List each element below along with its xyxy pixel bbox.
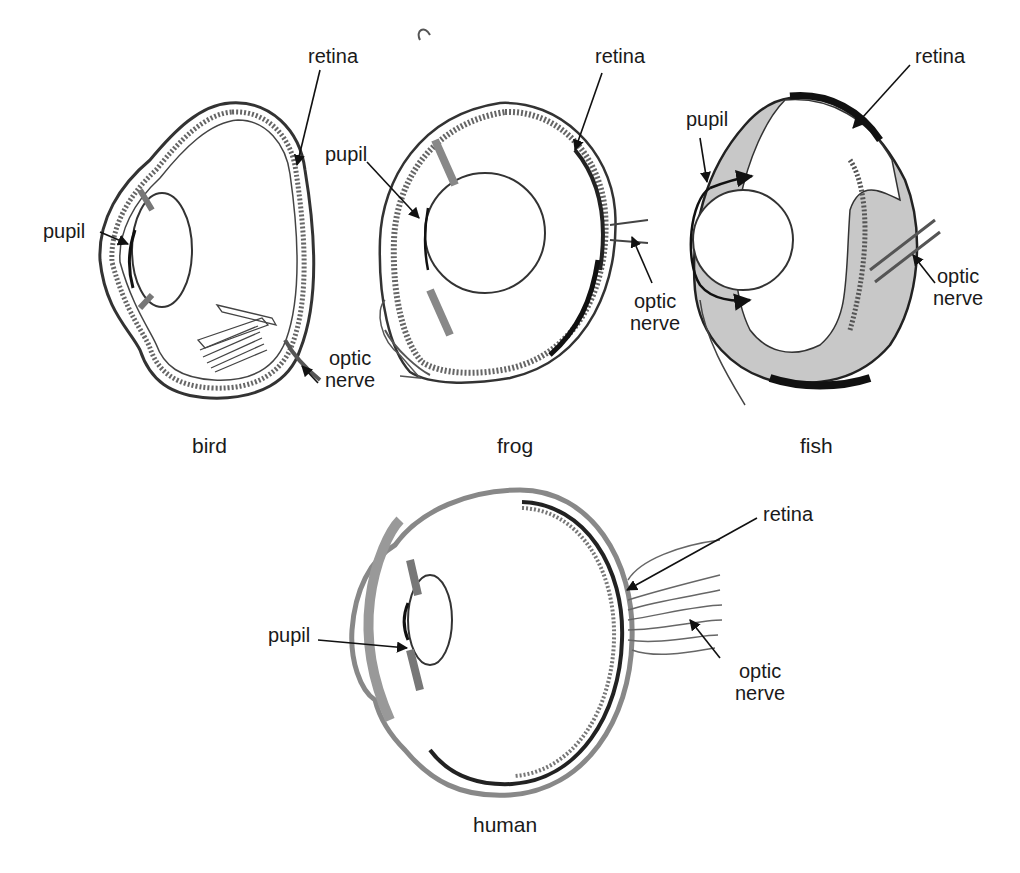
frog-optic-nerve-label: optic nerve (630, 290, 680, 334)
bird-optic-nerve-label: optic nerve (325, 347, 375, 391)
bird-pupil-label: pupil (43, 220, 85, 242)
frog-pupil-label: pupil (325, 143, 367, 165)
human-retina-label: retina (763, 503, 813, 525)
frog-optic-nerve-pointer (632, 237, 652, 283)
bird-retina-label: retina (308, 45, 358, 67)
human-optic-label-line1: optic (735, 660, 785, 682)
human-retina-pointer (627, 518, 757, 590)
fish-pupil-label: pupil (686, 108, 728, 130)
bird-retina-pointer (297, 70, 320, 165)
fish-retina-pointer (853, 65, 910, 128)
human-optic-label-line2: nerve (735, 682, 785, 704)
frog-eye-drawing (380, 30, 648, 383)
frog-caption: frog (497, 434, 533, 458)
fish-optic-label-line2: nerve (933, 287, 983, 309)
human-eye-drawing (352, 490, 722, 795)
fish-optic-label-line1: optic (933, 265, 983, 287)
bird-optic-label-line1: optic (325, 347, 375, 369)
fish-eye-drawing (691, 95, 940, 405)
fish-optic-nerve-label: optic nerve (933, 265, 983, 309)
frog-optic-label-line1: optic (630, 290, 680, 312)
bird-eye-drawing (100, 103, 320, 398)
bird-optic-label-line2: nerve (325, 369, 375, 391)
human-pupil-label: pupil (268, 624, 310, 646)
frog-retina-label: retina (595, 45, 645, 67)
bird-caption: bird (192, 434, 227, 458)
frog-retina-pointer (575, 73, 602, 150)
frog-optic-label-line2: nerve (630, 312, 680, 334)
human-optic-nerve-label: optic nerve (735, 660, 785, 704)
fish-caption: fish (800, 434, 833, 458)
fish-pupil-pointer (700, 138, 707, 182)
fish-retina-label: retina (915, 45, 965, 67)
human-caption: human (473, 813, 537, 837)
human-optic-nerve-pointer (690, 620, 720, 658)
